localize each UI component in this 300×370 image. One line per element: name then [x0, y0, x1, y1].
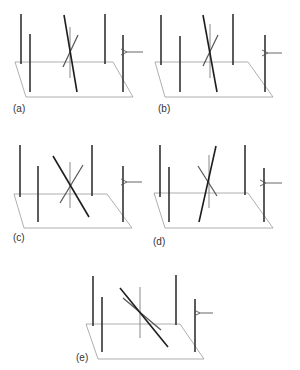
panel-label: (c) — [13, 232, 25, 243]
ground-plane — [154, 193, 273, 228]
tilted-rod-dark — [120, 288, 168, 347]
panel-e: (e) — [76, 275, 213, 363]
panel-a: (a) — [13, 14, 143, 114]
panel-label: (b) — [158, 103, 170, 114]
ground-plane — [15, 62, 133, 97]
panel-label: (d) — [153, 236, 165, 247]
panel-c: (c) — [13, 145, 142, 243]
panel-d: (d) — [153, 145, 282, 247]
tilted-rod-dark — [64, 15, 77, 92]
tilted-rod-light — [60, 165, 83, 203]
figure: (a)(b)(c)(d)(e) — [0, 0, 300, 370]
ground-plane — [14, 194, 132, 228]
ground-plane — [86, 324, 204, 359]
panel-b: (b) — [155, 14, 282, 114]
panel-label: (a) — [13, 103, 25, 114]
tilted-rod-dark — [199, 146, 216, 222]
tilted-rod-dark — [53, 156, 89, 217]
panel-label: (e) — [76, 352, 88, 363]
